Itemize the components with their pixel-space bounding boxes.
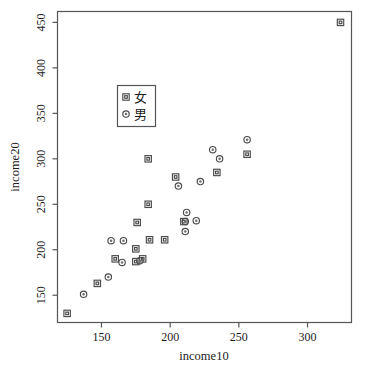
y-tick-label: 150 xyxy=(34,286,48,304)
y-axis-ticks: 150200250300350400450 xyxy=(34,13,58,304)
data-point-circle-dot xyxy=(177,185,180,188)
circle-marker-icon-dot xyxy=(125,113,128,116)
data-point-circle-dot xyxy=(211,148,214,151)
data-point-circle-dot xyxy=(82,293,85,296)
data-point-square-inner xyxy=(135,248,138,251)
data-point-square-inner xyxy=(174,176,177,179)
data-point-square-inner xyxy=(163,238,166,241)
data-point-circle-dot xyxy=(121,261,124,264)
data-point-square xyxy=(112,256,118,262)
data-point-circle-dot xyxy=(122,239,125,242)
x-tick-label: 200 xyxy=(161,330,179,344)
data-point-square-inner xyxy=(96,282,99,285)
data-point-square xyxy=(134,219,140,225)
x-tick-label: 300 xyxy=(299,330,317,344)
data-point-circle-dot xyxy=(199,180,202,183)
data-point-layer xyxy=(64,19,344,316)
data-point-square xyxy=(337,19,343,25)
legend-entry-label: 女 xyxy=(134,90,147,105)
data-point-circle-dot xyxy=(185,211,188,214)
data-point-circle-dot xyxy=(184,220,187,223)
legend-entry-label: 男 xyxy=(134,107,147,122)
data-point-square xyxy=(214,169,220,175)
y-tick-label: 400 xyxy=(34,59,48,77)
data-point-circle-dot xyxy=(110,239,113,242)
data-point-square xyxy=(145,156,151,162)
data-point-square-inner xyxy=(147,158,150,161)
x-tick-label: 150 xyxy=(92,330,110,344)
legend: 女男 xyxy=(118,86,156,127)
plot-canvas: 150200250300350400450 150200250300 incom… xyxy=(0,0,365,371)
data-point-square-inner xyxy=(246,153,249,156)
y-tick-label: 450 xyxy=(34,13,48,31)
data-point-square-inner xyxy=(147,203,150,206)
y-axis-title: income20 xyxy=(8,142,22,191)
data-point-square-inner xyxy=(148,238,151,241)
data-point-square-inner xyxy=(136,221,139,224)
data-point-circle-dot xyxy=(246,138,249,141)
x-axis-title: income10 xyxy=(179,349,228,363)
data-point-square-inner xyxy=(66,312,69,315)
scatter-plot-figure: 150200250300350400450 150200250300 incom… xyxy=(0,0,365,371)
data-point-circle-dot xyxy=(195,219,198,222)
data-point-square xyxy=(244,151,250,157)
data-point-circle-dot xyxy=(218,158,221,161)
data-point-square xyxy=(172,174,178,180)
y-tick-label: 250 xyxy=(34,195,48,213)
y-tick-label: 200 xyxy=(34,241,48,259)
x-axis-ticks: 150200250300 xyxy=(92,323,316,344)
data-point-square xyxy=(146,237,152,243)
plot-frame xyxy=(58,12,352,323)
data-point-square xyxy=(161,237,167,243)
data-point-square xyxy=(94,280,100,286)
data-point-circle-dot xyxy=(107,276,110,279)
data-point-square xyxy=(145,201,151,207)
data-point-circle-dot xyxy=(184,230,187,233)
data-point-circle-dot xyxy=(139,259,142,262)
data-point-square-inner xyxy=(114,258,117,261)
y-tick-label: 300 xyxy=(34,150,48,168)
data-point-square xyxy=(133,246,139,252)
data-point-square-inner xyxy=(216,171,219,174)
data-point-square-inner xyxy=(339,21,342,24)
x-tick-label: 250 xyxy=(230,330,248,344)
data-point-square xyxy=(64,310,70,316)
y-tick-label: 350 xyxy=(34,104,48,122)
